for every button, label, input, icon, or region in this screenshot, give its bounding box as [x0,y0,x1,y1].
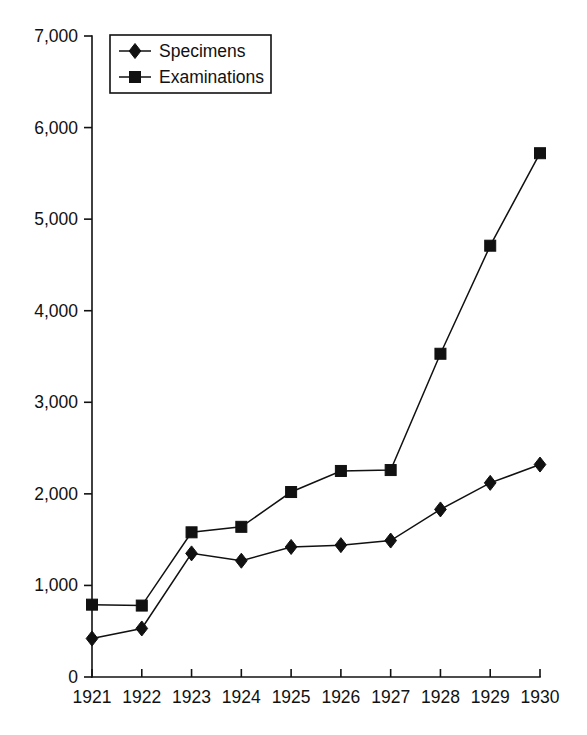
x-axis-tick-label: 1929 [471,687,510,707]
legend-marker-square [130,72,141,83]
data-point-examinations-1923 [186,527,197,538]
data-point-examinations-1928 [435,348,446,359]
data-point-specimens-1930 [534,457,546,472]
y-axis-tick-label: 2,000 [34,484,78,504]
legend-label: Specimens [159,41,246,61]
x-axis-tick-label: 1924 [222,687,261,707]
data-point-examinations-1922 [136,600,147,611]
data-point-specimens-1921 [86,631,98,646]
series-line-examinations [92,153,540,605]
legend-label: Examinations [159,67,264,87]
data-point-examinations-1927 [385,465,396,476]
y-axis-tick-label: 3,000 [34,392,78,412]
data-point-specimens-1927 [385,533,397,548]
series-examinations [87,148,546,611]
chart-canvas: 01,0002,0003,0004,0005,0006,0007,000 192… [0,0,587,735]
y-axis-tick-label: 4,000 [34,301,78,321]
x-axis: 1921192219231924192519261927192819291930 [73,669,560,707]
data-point-examinations-1925 [286,487,297,498]
data-point-specimens-1924 [235,553,247,568]
y-axis-tick-label: 5,000 [34,209,78,229]
line-chart: 01,0002,0003,0004,0005,0006,0007,000 192… [0,0,587,735]
data-point-examinations-1921 [87,599,98,610]
y-axis-tick-label: 7,000 [34,26,78,46]
x-axis-tick-label: 1926 [321,687,360,707]
series-specimens [86,457,546,646]
data-point-examinations-1929 [485,240,496,251]
chart-legend: SpecimensExaminations [110,35,271,93]
data-point-examinations-1924 [236,521,247,532]
data-point-specimens-1929 [484,475,496,490]
x-axis-tick-label: 1921 [73,687,112,707]
series-line-specimens [92,465,540,639]
data-point-specimens-1928 [435,502,447,517]
y-axis-tick-label: 6,000 [34,118,78,138]
data-point-examinations-1930 [535,148,546,159]
y-axis-tick-label: 1,000 [34,575,78,595]
x-axis-tick-label: 1927 [371,687,410,707]
data-point-specimens-1925 [285,539,297,554]
x-axis-tick-label: 1922 [122,687,161,707]
data-point-examinations-1926 [335,465,346,476]
x-axis-tick-label: 1930 [521,687,560,707]
x-axis-tick-label: 1923 [172,687,211,707]
x-axis-tick-label: 1928 [421,687,460,707]
data-point-specimens-1926 [335,538,347,553]
series-layer [86,148,546,646]
y-axis-tick-label: 0 [68,667,78,687]
y-axis: 01,0002,0003,0004,0005,0006,0007,000 [34,26,92,687]
x-axis-tick-label: 1925 [272,687,311,707]
